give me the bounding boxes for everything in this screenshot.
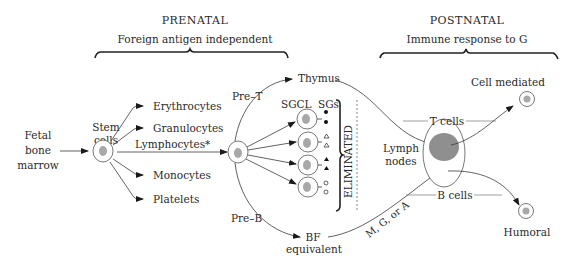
svg-text:bone: bone: [25, 144, 51, 156]
lymph-node-icon: [423, 119, 465, 187]
open-triangle-marker: [324, 134, 329, 138]
thymus-label: Thymus: [298, 72, 340, 84]
postnatal-brace: [380, 49, 558, 59]
stem-cell-icon: [93, 140, 113, 162]
clone-cell-2: [298, 132, 329, 152]
pre-t-path: [235, 79, 292, 141]
humoral-label: Humoral: [504, 226, 551, 238]
eliminated-label: ELIMINATED: [342, 125, 354, 198]
open-circle-marker: [324, 190, 328, 194]
lineage-granulocytes: Granulocytes: [153, 122, 224, 134]
lineage-monocytes: Monocytes: [153, 169, 211, 181]
lymphocyte-precursor-icon: [228, 141, 248, 163]
prenatal-subtitle: Foreign antigen independent: [118, 33, 274, 45]
clone-arrow-3: [248, 155, 296, 164]
t-cells-label: T cells: [430, 115, 465, 127]
filled-circle-marker: [324, 110, 328, 114]
pre-b-label: Pre–B: [231, 212, 263, 224]
clone-arrow-2: [248, 142, 296, 150]
pre-b-path: [235, 163, 300, 237]
clone-cell-4: [298, 177, 328, 197]
filled-triangle-marker: [324, 157, 329, 161]
b-cells-label: B cells: [437, 189, 472, 201]
postnatal-title: POSTNATAL: [430, 14, 505, 27]
bf-label: BF: [305, 231, 320, 243]
cell-mediated-cell-icon: [520, 92, 535, 107]
humoral-cell-icon: [519, 204, 534, 219]
pre-t-label: Pre–T: [232, 90, 263, 102]
immune-development-diagram: PRENATAL Foreign antigen independent POS…: [0, 0, 580, 269]
filled-circle-marker: [324, 120, 328, 124]
prenatal-header: PRENATAL Foreign antigen independent: [95, 14, 288, 58]
clone-cell-3: [298, 155, 329, 175]
sgcl-header: SGCL: [281, 98, 312, 110]
open-triangle-marker: [324, 143, 329, 147]
fetal-bone-marrow-label: Fetal bone marrow: [17, 129, 59, 171]
lineage-erythrocytes: Erythrocytes: [153, 100, 222, 112]
bf-equivalent-label: equivalent: [286, 243, 343, 255]
svg-text:marrow: marrow: [17, 159, 59, 171]
svg-text:Fetal: Fetal: [25, 129, 52, 141]
lineage-platelets: Platelets: [153, 193, 199, 205]
postnatal-header: POSTNATAL Immune response to G: [380, 14, 558, 59]
clone-cell-1: [297, 109, 328, 129]
cell-mediated-label: Cell mediated: [471, 76, 545, 88]
open-circle-marker: [324, 181, 328, 185]
filled-triangle-marker: [324, 166, 329, 170]
prenatal-title: PRENATAL: [162, 14, 229, 27]
prenatal-brace: [95, 49, 288, 58]
svg-text:Stem: Stem: [92, 121, 120, 133]
immunoglobulin-label: M, G, or A: [363, 199, 411, 240]
lymph-nodes-label-1: Lymph: [383, 142, 419, 154]
postnatal-subtitle: Immune response to G: [407, 33, 528, 45]
lineage-lymphocytes: Lymphocytes*: [135, 138, 211, 150]
sgs-header: SGs: [318, 98, 339, 110]
lymph-nodes-label-2: nodes: [385, 155, 416, 167]
